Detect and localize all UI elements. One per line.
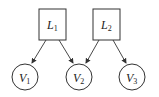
observed-node-V1: V1: [12, 64, 38, 90]
latent-node-L1: L1: [39, 9, 66, 40]
edge-L1-V1: [32, 40, 46, 63]
observed-node-V3: V3: [119, 64, 145, 90]
observed-node-V2: V2: [66, 64, 92, 90]
edge-L1-V2: [59, 40, 73, 63]
causal-diagram: L1 L2 V1 V2 V3: [0, 0, 159, 97]
latent-node-L2: L2: [93, 9, 120, 40]
edge-L2-V3: [113, 40, 126, 63]
edge-L2-V2: [86, 40, 99, 63]
